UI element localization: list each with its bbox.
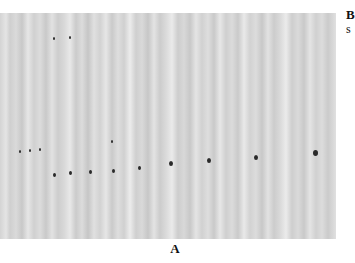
dark-dot-marker (19, 150, 21, 153)
dark-dot-marker (69, 36, 71, 39)
dark-dot-marker (69, 171, 72, 175)
panel-label-b: B (346, 7, 355, 23)
dark-dot-marker (111, 140, 113, 143)
panel-label-a: A (165, 241, 185, 257)
dark-dot-marker (169, 161, 173, 166)
striped-photo-panel-a (0, 13, 336, 239)
side-caption-fragment: s (346, 22, 351, 37)
dark-dot-marker (29, 149, 31, 152)
dark-dot-marker (207, 158, 211, 163)
dark-dot-marker (112, 169, 115, 173)
dark-dot-marker (138, 166, 141, 170)
dark-dot-marker (89, 170, 92, 174)
dark-dot-marker (53, 173, 56, 177)
dark-dot-marker (53, 37, 55, 40)
dark-dot-marker (313, 150, 318, 156)
dark-dot-marker (254, 155, 258, 160)
dark-dot-marker (39, 148, 41, 151)
